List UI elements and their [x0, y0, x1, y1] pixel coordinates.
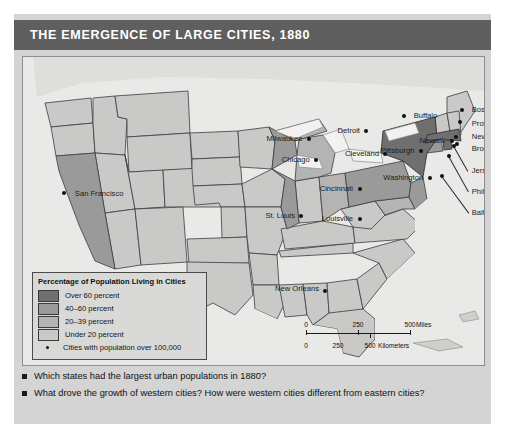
city-label: Cleveland	[345, 150, 379, 158]
legend-title: Percentage of Population Living in Citie…	[38, 277, 201, 286]
city-label: Milwaukee	[266, 135, 302, 143]
city-leader-line	[448, 156, 469, 192]
city-label: Brooklyn	[472, 146, 485, 154]
city-dot	[62, 191, 66, 195]
city-label: Philadelphia	[472, 188, 485, 196]
city-dot	[452, 144, 456, 148]
legend-dot-wrap	[38, 346, 57, 350]
map-frame: San FranciscoMilwaukeeChicagoSt. LouisDe…	[22, 56, 485, 366]
legend-label-under-20: Under 20 percent	[65, 330, 124, 339]
city-dot	[364, 129, 368, 133]
city-label: Buffalo	[414, 112, 438, 120]
city-dot	[458, 120, 462, 124]
city-dot	[314, 158, 318, 162]
legend-row-over-60: Over 60 percent	[38, 289, 201, 302]
discussion-questions: Which states had the largest urban popul…	[22, 370, 483, 403]
question-text-2: What drove the growth of western cities?…	[34, 387, 424, 400]
legend-label-over-60: Over 60 percent	[65, 291, 119, 300]
city-label: Pittsburgh	[380, 147, 414, 155]
city-dot	[450, 139, 454, 143]
scale-tick-mid	[358, 330, 359, 335]
question-item: What drove the growth of western cities?…	[22, 387, 483, 400]
city-label: Providence	[472, 120, 485, 128]
city-dot	[323, 289, 327, 293]
city-dot	[358, 187, 362, 191]
legend-label-city-point: Cities with population over 100,000	[63, 343, 181, 352]
city-point-icon	[46, 346, 50, 350]
figure-panel: THE EMERGENCE OF LARGE CITIES, 1880	[14, 14, 491, 424]
map-figure-page: THE EMERGENCE OF LARGE CITIES, 1880	[0, 0, 505, 439]
city-label: Louisville	[322, 215, 353, 223]
city-label: Detroit	[338, 127, 360, 135]
city-dot	[307, 137, 311, 141]
figure-title-bar: THE EMERGENCE OF LARGE CITIES, 1880	[14, 20, 491, 50]
city-label: Washington	[383, 175, 423, 183]
page-title: THE EMERGENCE OF LARGE CITIES, 1880	[14, 28, 310, 42]
scale-miles-500: 500	[404, 321, 415, 328]
city-label: Boston	[472, 106, 485, 114]
legend-label-40-60: 40–60 percent	[65, 304, 114, 313]
city-label: Cincinnati	[320, 185, 353, 193]
scale-km-250: 250	[332, 342, 343, 349]
city-dot	[402, 114, 406, 118]
legend-swatch-over-60	[38, 290, 59, 302]
scale-miles-unit: Miles	[416, 321, 431, 328]
legend-label-20-39: 20–39 percent	[65, 317, 114, 326]
city-label: New Orleans	[275, 285, 319, 293]
bullet-icon	[22, 391, 27, 396]
city-dot	[447, 154, 451, 158]
legend-swatch-20-39	[38, 316, 59, 328]
city-label: New York	[472, 133, 485, 141]
city-label: Jersey City	[472, 167, 485, 175]
city-dot	[358, 217, 362, 221]
city-label: Baltimore	[472, 209, 485, 217]
legend-swatch-40-60	[38, 303, 59, 315]
map-legend: Percentage of Population Living in Citie…	[32, 272, 207, 360]
legend-row-city-point: Cities with population over 100,000	[38, 341, 201, 354]
city-label: Chicago	[282, 157, 310, 165]
legend-row-40-60: 40–60 percent	[38, 302, 201, 315]
scale-km-500: 500	[364, 342, 375, 349]
question-item: Which states had the largest urban popul…	[22, 370, 483, 383]
legend-row-20-39: 20–39 percent	[38, 315, 201, 328]
legend-row-under-20: Under 20 percent	[38, 328, 201, 341]
question-text-1: Which states had the largest urban popul…	[34, 370, 266, 383]
city-dot	[460, 108, 464, 112]
scale-tick-km-mid	[370, 333, 371, 338]
city-dot	[428, 176, 432, 180]
city-label: San Francisco	[75, 190, 124, 198]
scale-tick-right	[410, 330, 411, 335]
city-leader-line	[441, 176, 469, 214]
scale-tick-left	[306, 330, 307, 335]
scale-km-0: 0	[304, 342, 308, 349]
scale-km-unit: Kilometers	[378, 342, 409, 349]
city-dot	[454, 135, 458, 139]
city-dot	[419, 149, 423, 153]
city-label: St. Louis	[265, 212, 295, 220]
scale-miles-250: 250	[352, 321, 363, 328]
city-dot	[440, 174, 444, 178]
city-dot	[299, 214, 303, 218]
city-label: Newark	[420, 137, 446, 145]
scale-miles-0: 0	[304, 321, 308, 328]
bullet-icon	[22, 374, 27, 379]
legend-swatch-under-20	[38, 329, 59, 341]
map-scale-bar: 0 250 500 Miles 0 250 500 Kilometers	[306, 321, 424, 357]
